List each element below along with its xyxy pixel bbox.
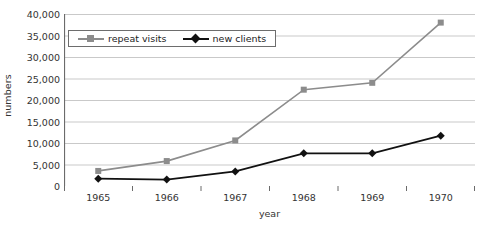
data-point-marker [95,168,101,174]
legend-marker-swatch [190,34,200,44]
chart-legend: repeat visitsnew clients [68,30,276,47]
series-line [98,136,441,180]
legend-square-marker-icon [78,34,104,44]
legend-entry[interactable]: repeat visits [78,33,167,44]
x-axis-title: year [64,208,475,219]
legend-label: new clients [213,33,267,44]
data-point-marker [231,167,239,175]
data-point-marker [232,137,238,143]
line-chart: numbers 05,00010,00015,00020,00025,00030… [0,0,489,228]
y-axis-tick-label: 25,000 [12,73,60,84]
y-axis-tick-label: 30,000 [12,52,60,63]
y-axis-tick-label: 20,000 [12,95,60,106]
legend-label: repeat visits [108,33,167,44]
y-axis-tick-label: 35,000 [12,30,60,41]
y-axis-tick-label: 15,000 [12,116,60,127]
data-point-marker [94,175,102,183]
data-point-marker [369,80,375,86]
data-point-marker [437,132,445,140]
legend-marker-swatch [87,35,94,42]
y-axis-title-label: numbers [2,74,13,117]
data-point-marker [300,149,308,157]
y-axis-tick-label: 5,000 [12,159,60,170]
y-axis-tick-labels: 05,00010,00015,00020,00025,00030,00035,0… [12,0,60,228]
data-point-marker [368,149,376,157]
legend-diamond-marker-icon [183,34,209,44]
data-point-marker [301,87,307,93]
data-point-marker [438,20,444,26]
y-axis-tick-label: 0 [12,181,60,192]
x-axis [64,186,475,194]
legend-entry[interactable]: new clients [183,33,267,44]
x-axis-tick-labels: 196519661967196819691970 [64,192,475,208]
data-point-marker [164,158,170,164]
y-axis-tick-label: 40,000 [12,9,60,20]
data-point-marker [163,176,171,184]
y-axis-tick-label: 10,000 [12,138,60,149]
